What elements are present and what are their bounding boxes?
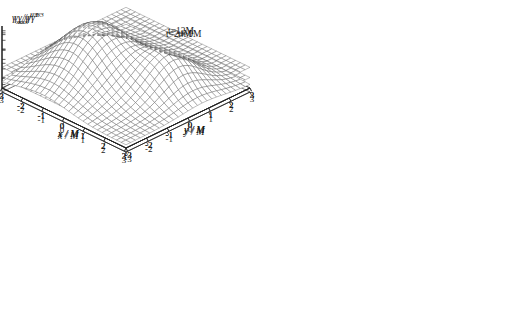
x-axis-tick-label: -3: [0, 95, 7, 105]
y-axis-title: y / M: [184, 126, 205, 137]
z-axis-label-exponent: 1/3: [35, 11, 44, 19]
z-axis-label: γxx/γ1/3: [18, 11, 44, 26]
x-axis-title: x / M: [58, 130, 79, 141]
y-axis-tick-label: 3: [245, 94, 259, 104]
y-axis-tick-label: 1: [204, 114, 218, 124]
y-axis-tick-label: -1: [162, 134, 176, 144]
y-axis-tick-label: 2: [224, 104, 238, 114]
x-axis-tick-label: 2: [96, 145, 110, 155]
y-axis-tick-label: -2: [142, 144, 156, 154]
wireframe-mesh: [2, 22, 250, 145]
x-axis-tick-label: -1: [34, 115, 48, 125]
y-axis-tick-label: -3: [121, 154, 135, 164]
x-axis-tick-label: -2: [14, 105, 28, 115]
time-annotation: t=24M: [166, 29, 192, 39]
